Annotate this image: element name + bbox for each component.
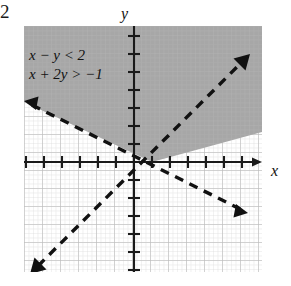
x-axis-label: x bbox=[271, 163, 278, 179]
figure-container: 2 bbox=[0, 0, 291, 286]
inequality-label-1: x − y < 2 bbox=[29, 48, 85, 63]
figure-number: 2 bbox=[0, 2, 10, 21]
y-axis-label: y bbox=[121, 6, 128, 22]
inequality-label-2: x + 2y > −1 bbox=[29, 67, 103, 82]
